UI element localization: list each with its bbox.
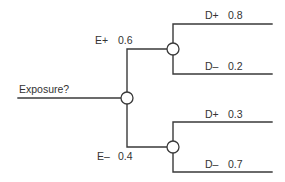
branch-label: E+ [95,34,108,46]
label-exposure-negative: E– 0.4 [97,150,133,162]
label-e-pos-d-neg: D– 0.2 [205,60,243,72]
root-label: Exposure? [19,83,69,95]
chance-node-exposure [121,92,133,104]
decision-tree: Exposure? E+ 0.6 E– 0.4 D+ 0.8 D– 0.2 D+… [0,0,285,182]
outcome-label: D+ [205,9,219,21]
chance-node-exposed [167,43,179,55]
edge-exposure-positive [127,49,167,92]
outcome-probability: 0.3 [228,108,243,120]
edge-e-neg-d-pos [173,122,272,141]
edge-exposure-negative [127,104,167,147]
branch-label: E– [97,150,110,162]
label-e-neg-d-neg: D– 0.7 [205,158,243,170]
label-exposure-positive: E+ 0.6 [95,34,133,46]
edge-e-pos-d-pos [173,24,272,43]
outcome-label: D– [205,60,219,72]
branch-probability: 0.6 [118,34,133,46]
chance-node-unexposed [167,141,179,153]
outcome-probability: 0.8 [228,9,243,21]
outcome-probability: 0.2 [228,60,243,72]
branch-probability: 0.4 [118,150,133,162]
edge-e-neg-d-neg [173,153,272,172]
outcome-label: D– [205,158,219,170]
outcome-probability: 0.7 [228,158,243,170]
edge-e-pos-d-neg [173,55,272,74]
outcome-label: D+ [205,108,219,120]
label-e-neg-d-pos: D+ 0.3 [205,108,243,120]
label-e-pos-d-pos: D+ 0.8 [205,9,243,21]
